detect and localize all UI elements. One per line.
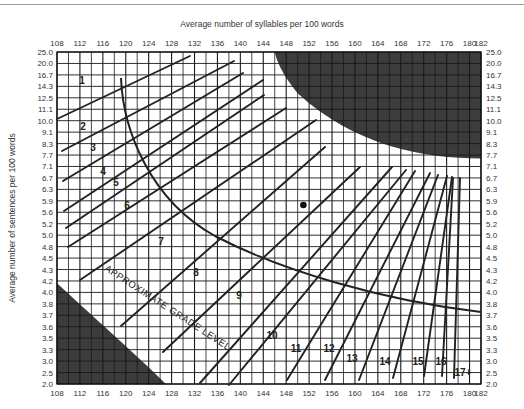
x-tick-top: 160 xyxy=(348,39,362,48)
y-tick-right: 3.6 xyxy=(486,323,498,332)
y-tick-right: 5.9 xyxy=(486,197,498,206)
grade-label-17-plus: 17+ xyxy=(455,367,472,378)
y-tick-right: 6.3 xyxy=(486,185,498,194)
fry-readability-chart: 1081081121121161161201201241241281281321… xyxy=(0,0,524,409)
grade-label-7: 7 xyxy=(158,236,164,247)
x-tick-bottom: 144 xyxy=(257,389,271,398)
grade-label-1: 1 xyxy=(79,75,85,86)
y-tick-right: 5.0 xyxy=(486,231,498,240)
x-tick-bottom: 172 xyxy=(417,389,431,398)
y-tick-right: 20.0 xyxy=(486,59,502,68)
y-tick-left: 4.3 xyxy=(42,266,54,275)
y-tick-left: 6.3 xyxy=(42,185,54,194)
x-tick-top: 172 xyxy=(417,39,431,48)
x-tick-top: 124 xyxy=(142,39,156,48)
y-tick-left: 5.0 xyxy=(42,231,54,240)
approximate-grade-level-label: APPROXIMATE GRADE LEVEL xyxy=(103,262,233,352)
y-tick-right: 5.6 xyxy=(486,208,498,217)
y-tick-right: 7.7 xyxy=(486,151,498,160)
y-tick-left: 5.6 xyxy=(42,208,54,217)
y-tick-right: 2.5 xyxy=(486,369,498,378)
x-tick-top: 108 xyxy=(50,39,64,48)
y-tick-right: 25.0 xyxy=(486,48,502,57)
grade-label-10: 10 xyxy=(266,330,278,341)
grade-label-14: 14 xyxy=(379,356,391,367)
x-tick-bottom: 182 xyxy=(474,389,488,398)
y-tick-left: 2.5 xyxy=(42,369,54,378)
y-tick-right: 4.2 xyxy=(486,277,498,286)
y-tick-right: 4.0 xyxy=(486,288,498,297)
y-tick-left: 3.6 xyxy=(42,323,54,332)
y-tick-right: 3.8 xyxy=(486,300,498,309)
x-tick-top: 182 xyxy=(474,39,488,48)
y-tick-right: 4.3 xyxy=(486,266,498,275)
y-tick-right: 16.7 xyxy=(486,71,502,80)
y-tick-left: 6.7 xyxy=(42,174,54,183)
y-tick-left: 3.8 xyxy=(42,300,54,309)
y-tick-right: 4.5 xyxy=(486,254,498,263)
x-tick-top: 132 xyxy=(188,39,202,48)
x-tick-bottom: 168 xyxy=(394,389,408,398)
y-tick-right: 3.0 xyxy=(486,357,498,366)
grade-label-4: 4 xyxy=(100,166,106,177)
y-tick-left: 7.7 xyxy=(42,151,54,160)
x-tick-top: 128 xyxy=(165,39,179,48)
y-tick-right: 7.1 xyxy=(486,162,498,171)
x-tick-bottom: 164 xyxy=(371,389,385,398)
x-tick-top: 152 xyxy=(302,39,316,48)
y-tick-left: 11.1 xyxy=(38,105,54,114)
x-tick-top: 164 xyxy=(371,39,385,48)
y-tick-right: 9.1 xyxy=(486,128,498,137)
y-tick-left: 7.1 xyxy=(42,162,54,171)
y-tick-right: 6.7 xyxy=(486,174,498,183)
y-tick-left: 3.7 xyxy=(42,311,54,320)
grade-label-15: 15 xyxy=(412,356,424,367)
x-tick-bottom: 108 xyxy=(50,389,64,398)
y-tick-right: 3.5 xyxy=(486,334,498,343)
y-tick-left: 4.5 xyxy=(42,254,54,263)
grade-label-6: 6 xyxy=(124,200,130,211)
x-tick-bottom: 152 xyxy=(302,389,316,398)
y-tick-left: 9.1 xyxy=(42,128,54,137)
y-tick-left: 14.3 xyxy=(37,82,53,91)
y-tick-left: 5.2 xyxy=(42,220,54,229)
x-tick-top: 136 xyxy=(211,39,225,48)
y-tick-left: 2.0 xyxy=(42,380,54,389)
sample-point xyxy=(300,202,307,209)
x-tick-bottom: 148 xyxy=(280,389,294,398)
y-tick-right: 11.1 xyxy=(486,105,502,114)
grade-label-5: 5 xyxy=(113,177,119,188)
x-tick-bottom: 128 xyxy=(165,389,179,398)
y-tick-left: 8.3 xyxy=(42,140,54,149)
x-tick-bottom: 140 xyxy=(234,389,248,398)
y-tick-left: 20.0 xyxy=(37,59,53,68)
grade-label-12: 12 xyxy=(323,343,335,354)
y-tick-left: 12.5 xyxy=(37,94,53,103)
y-tick-left: 4.8 xyxy=(42,243,54,252)
y-tick-right: 14.3 xyxy=(486,82,502,91)
x-tick-bottom: 156 xyxy=(325,389,339,398)
x-tick-bottom: 116 xyxy=(96,389,109,398)
grade-label-11: 11 xyxy=(291,343,302,354)
y-tick-right: 5.2 xyxy=(486,220,498,229)
x-tick-top: 168 xyxy=(394,39,408,48)
y-tick-left: 25.0 xyxy=(37,48,53,57)
x-tick-bottom: 176 xyxy=(440,389,454,398)
y-tick-right: 2.0 xyxy=(486,380,498,389)
y-tick-right: 10.0 xyxy=(486,117,502,126)
x-tick-bottom: 112 xyxy=(74,389,87,398)
grade-label-2: 2 xyxy=(80,121,86,132)
y-tick-left: 4.0 xyxy=(42,288,54,297)
grade-label-13: 13 xyxy=(346,353,358,364)
x-tick-top: 116 xyxy=(96,39,109,48)
x-tick-bottom: 124 xyxy=(142,389,156,398)
grade-label-16: 16 xyxy=(435,356,447,367)
x-tick-bottom: 120 xyxy=(119,389,133,398)
x-tick-bottom: 136 xyxy=(211,389,225,398)
y-tick-right: 3.3 xyxy=(486,346,498,355)
y-tick-left: 4.2 xyxy=(42,277,54,286)
x-tick-top: 156 xyxy=(325,39,339,48)
y-tick-right: 3.7 xyxy=(486,311,498,320)
y-tick-left: 10.0 xyxy=(37,117,53,126)
y-tick-left: 3.5 xyxy=(42,334,54,343)
